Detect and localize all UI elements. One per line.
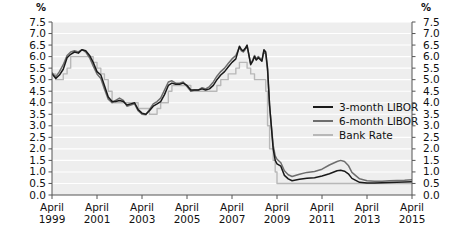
legend-line-icon — [313, 120, 333, 122]
y-tick-label-left: 1.0 — [22, 166, 46, 177]
y-tick-label-right: 4.0 — [423, 97, 449, 108]
y-tick-label-left: 4.5 — [22, 86, 46, 97]
y-tick-label-left: 6.5 — [22, 40, 46, 51]
y-axis-unit-right: % — [421, 2, 431, 13]
y-tick-label-right: 0.5 — [423, 178, 449, 189]
legend-item-6-month-libor[interactable]: 6-month LIBOR — [313, 114, 421, 128]
y-tick-label-right: 5.0 — [423, 74, 449, 85]
y-tick-label-left: 5.5 — [22, 63, 46, 74]
y-tick-label-right: 5.5 — [423, 63, 449, 74]
y-tick-label-right: 7.5 — [423, 17, 449, 28]
x-tick-month: April — [384, 202, 440, 214]
x-tick-label: April2015 — [384, 202, 440, 225]
y-tick-label-left: 7.0 — [22, 28, 46, 39]
y-tick-label-right: 0.0 — [423, 190, 449, 201]
y-tick-label-right: 4.5 — [423, 86, 449, 97]
y-tick-label-right: 2.0 — [423, 143, 449, 154]
legend-item-bank-rate[interactable]: Bank Rate — [313, 128, 421, 142]
legend-line-icon — [313, 106, 333, 108]
y-tick-label-left: 1.5 — [22, 155, 46, 166]
y-tick-label-left: 3.5 — [22, 109, 46, 120]
legend-item-3-month-libor[interactable]: 3-month LIBOR — [313, 100, 421, 114]
x-tick-year: 2015 — [384, 214, 440, 226]
y-tick-label-right: 7.0 — [423, 28, 449, 39]
y-tick-label-right: 6.5 — [423, 40, 449, 51]
y-tick-label-right: 6.0 — [423, 51, 449, 62]
y-tick-label-right: 1.5 — [423, 155, 449, 166]
y-tick-label-left: 5.0 — [22, 74, 46, 85]
legend-label: Bank Rate — [339, 129, 393, 141]
y-tick-label-left: 4.0 — [22, 97, 46, 108]
chart-legend: 3-month LIBOR6-month LIBORBank Rate — [313, 100, 421, 142]
legend-line-icon — [313, 134, 333, 136]
y-tick-label-right: 2.5 — [423, 132, 449, 143]
y-axis-unit-left: % — [36, 2, 46, 13]
libor-bank-rate-chart: % % 7.57.06.56.05.55.04.54.03.53.02.52.0… — [0, 0, 455, 241]
y-tick-label-left: 2.5 — [22, 132, 46, 143]
y-tick-label-left: 0.0 — [22, 190, 46, 201]
y-tick-label-right: 1.0 — [423, 166, 449, 177]
y-tick-label-left: 2.0 — [22, 143, 46, 154]
legend-label: 6-month LIBOR — [339, 115, 418, 127]
y-tick-label-left: 6.0 — [22, 51, 46, 62]
y-tick-label-right: 3.5 — [423, 109, 449, 120]
y-tick-label-left: 3.0 — [22, 120, 46, 131]
y-tick-label-left: 0.5 — [22, 178, 46, 189]
y-tick-label-left: 7.5 — [22, 17, 46, 28]
y-tick-label-right: 3.0 — [423, 120, 449, 131]
legend-label: 3-month LIBOR — [339, 101, 418, 113]
